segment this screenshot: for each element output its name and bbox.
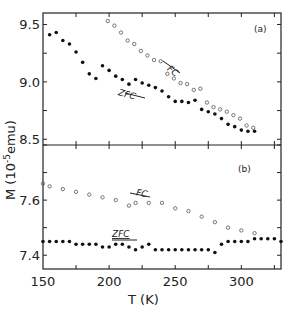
fc-point [139, 49, 142, 52]
panel-b-label: (b) [238, 164, 251, 174]
fc-point [213, 220, 216, 223]
zfc-point [259, 237, 263, 241]
zfc-point [107, 69, 111, 73]
panel-a-label: (a) [254, 24, 267, 34]
fc-point [212, 105, 215, 108]
zfc-point [200, 248, 204, 252]
y-tick-label: 7.6 [19, 193, 40, 208]
zfc-point [147, 84, 151, 88]
y-tick-label: 9.5 [19, 17, 40, 32]
zfc-point [240, 240, 244, 244]
zfc-point [167, 95, 171, 99]
zfc-point [101, 245, 105, 249]
zfc-point [220, 117, 224, 121]
fc-point [88, 193, 91, 196]
zfc-point [240, 128, 244, 132]
zfc-point [279, 240, 283, 244]
zfc-point [226, 123, 230, 127]
zfc-point [140, 81, 144, 85]
zfc-annotation-b: ZFC [111, 229, 137, 240]
svg-text:ZFC: ZFC [111, 229, 130, 239]
fc-point [160, 201, 163, 204]
zfc-point [48, 33, 52, 37]
zfc-point [220, 242, 224, 246]
fc-point [253, 231, 256, 234]
x-tick-label: 150 [31, 274, 56, 289]
fc-point [238, 117, 241, 120]
fc-annotation-a: FC [163, 61, 181, 79]
svg-text:FC: FC [165, 63, 181, 78]
fc-point [133, 42, 136, 45]
zfc-point [180, 248, 184, 252]
zfc-point [121, 242, 125, 246]
zfc-point [68, 42, 72, 46]
zfc-point [140, 245, 144, 249]
fc-point [185, 82, 188, 85]
axes-frame [43, 13, 281, 269]
zfc-point [127, 82, 131, 86]
fc-point [174, 207, 177, 210]
zfc-point [81, 242, 85, 246]
zfc-point [253, 129, 257, 133]
fc-point [205, 101, 208, 104]
zfc-point [167, 248, 171, 252]
zfc-point [74, 242, 78, 246]
zfc-point [233, 240, 237, 244]
zfc-point [193, 98, 197, 102]
fc-point [114, 198, 117, 201]
fc-point [146, 54, 149, 57]
zfc-point [173, 100, 177, 104]
x-tick-label: 200 [97, 274, 122, 289]
zfc-point [101, 64, 105, 68]
zfc-point [134, 78, 138, 82]
zfc-point [81, 61, 85, 65]
zfc-point [68, 240, 72, 244]
zfc-point [54, 240, 58, 244]
fc-point [134, 201, 137, 204]
zfc-point [246, 129, 250, 133]
zfc-point [206, 248, 210, 252]
fc-point [245, 124, 248, 127]
fc-annotation-b: FC [130, 187, 150, 199]
fc-point [226, 226, 229, 229]
fc-point [126, 39, 129, 42]
zfc-annotation-a: ZFC [116, 87, 145, 102]
zfc-point [94, 242, 98, 246]
figure: 8.59.09.57.47.6150200250300 (a) (b) FC Z… [0, 0, 291, 314]
zfc-point [187, 248, 191, 252]
zfc-point [61, 39, 65, 43]
zfc-point [54, 31, 58, 35]
zfc-point [41, 240, 45, 244]
fc-point [225, 110, 228, 113]
fc-point [101, 196, 104, 199]
zfc-point [233, 125, 237, 129]
zfc-point [107, 245, 111, 249]
zfc-point [127, 245, 131, 249]
y-tick-label: 8.5 [19, 132, 40, 147]
zfc-point [154, 86, 158, 90]
zfc-point [226, 240, 230, 244]
zfc-point [87, 72, 91, 76]
zfc-point [114, 242, 118, 246]
svg-text:ZFC: ZFC [116, 87, 137, 102]
x-axis-label: T (K) [127, 292, 159, 307]
zfc-point [74, 50, 78, 54]
fc-point [48, 185, 51, 188]
zfc-point [266, 237, 270, 241]
zfc-point [154, 248, 158, 252]
zfc-point [147, 242, 151, 246]
fc-point [152, 58, 155, 61]
zfc-point [200, 108, 204, 112]
y-axis-label: M (10-5emu) [2, 120, 18, 200]
data-points [41, 19, 283, 254]
fc-point [200, 215, 203, 218]
svg-text:FC: FC [135, 187, 149, 199]
fc-point [113, 24, 116, 27]
zfc-point [61, 240, 65, 244]
x-tick-label: 300 [229, 274, 254, 289]
fc-point [74, 190, 77, 193]
zfc-point [121, 78, 125, 82]
fc-point [106, 19, 109, 22]
x-tick-label: 250 [163, 274, 188, 289]
fc-point [192, 88, 195, 91]
